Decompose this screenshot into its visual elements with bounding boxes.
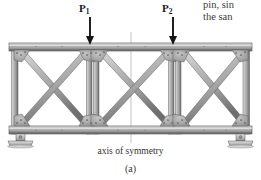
page-body-text-line-1: pin, sin bbox=[203, 0, 234, 12]
load-label-p2-symbol: P bbox=[162, 2, 169, 14]
axis-of-symmetry-caption: axis of symmetry bbox=[0, 146, 261, 156]
load-arrow-p2 bbox=[169, 17, 177, 45]
support-pin bbox=[239, 136, 242, 139]
top-chord-group bbox=[9, 43, 252, 51]
load-label-p1-symbol: P bbox=[79, 2, 86, 14]
load-label-p2: P2 bbox=[162, 2, 172, 16]
diagonal-bracing-group bbox=[18, 50, 246, 126]
load-label-p2-subscript: 2 bbox=[169, 7, 173, 16]
load-label-p1-subscript: 1 bbox=[86, 7, 90, 16]
bottom-chord-group bbox=[9, 126, 252, 134]
subfigure-label: (a) bbox=[0, 163, 261, 174]
load-label-p1: P1 bbox=[79, 2, 89, 16]
page-body-text-line-2: the san bbox=[203, 11, 232, 24]
load-arrow-p1 bbox=[86, 17, 94, 45]
panel-1-bracing bbox=[18, 50, 88, 126]
panel-2-bracing bbox=[97, 50, 170, 126]
panel-3-bracing bbox=[180, 50, 246, 126]
truss-figure: pin, sin the san P1 P2 axis of symmetry … bbox=[0, 0, 261, 180]
support-pin bbox=[19, 136, 22, 139]
